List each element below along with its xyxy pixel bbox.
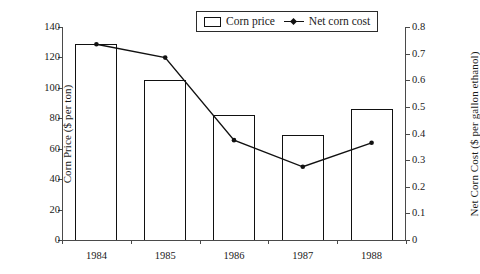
x-axis-tick-label: 1987 bbox=[268, 251, 337, 262]
y-axis-left-tick-label: 80 bbox=[50, 113, 61, 124]
y-axis-right-tick-label: 0.6 bbox=[412, 75, 425, 86]
y-axis-right-tick-label: 0.3 bbox=[412, 155, 425, 166]
data-point-marker bbox=[232, 138, 237, 143]
legend-entry-net-corn-cost: Net corn cost bbox=[284, 16, 370, 28]
y-axis-left-tick-label: 120 bbox=[44, 52, 60, 63]
y-axis-right-tick bbox=[406, 187, 410, 188]
net-corn-cost-markers bbox=[94, 42, 374, 169]
plot-area: Corn Price ($ per ton) Net Corn Cost ($ … bbox=[62, 27, 406, 240]
y-axis-left-tick-label: 100 bbox=[44, 83, 60, 94]
x-axis-tick-label: 1984 bbox=[62, 251, 131, 262]
data-point-marker bbox=[301, 164, 306, 169]
y-axis-right-tick bbox=[406, 27, 410, 28]
y-axis-right-title: Net Corn Cost ($ per gallon ethanol) bbox=[468, 51, 480, 216]
y-axis-right-tick bbox=[406, 54, 410, 55]
y-axis-right-tick-label: 0.7 bbox=[412, 49, 425, 60]
y-axis-right-tick-label: 0.1 bbox=[412, 208, 425, 219]
net-corn-cost-line bbox=[96, 44, 371, 166]
legend-entry-corn-price: Corn price bbox=[204, 16, 275, 28]
x-axis-tick-label: 1986 bbox=[200, 251, 269, 262]
x-axis-tick bbox=[406, 240, 407, 244]
y-axis-left-tick-label: 60 bbox=[50, 144, 61, 155]
y-axis-right-tick-label: 0.8 bbox=[412, 22, 425, 33]
bar-swatch-icon bbox=[204, 17, 221, 27]
x-axis-tick-label: 1985 bbox=[131, 251, 200, 262]
y-axis-right-tick bbox=[406, 107, 410, 108]
y-axis-left-tick-label: 0 bbox=[55, 235, 60, 246]
line-series-net-corn-cost bbox=[62, 27, 406, 241]
y-axis-right-tick bbox=[406, 160, 410, 161]
y-axis-right-tick bbox=[406, 134, 410, 135]
y-axis-right-tick bbox=[406, 80, 410, 81]
line-marker-icon bbox=[284, 18, 304, 26]
data-point-marker bbox=[163, 55, 168, 60]
y-axis-right-tick-label: 0.2 bbox=[412, 182, 425, 193]
y-axis-right-tick-label: 0.5 bbox=[412, 102, 425, 113]
data-point-marker bbox=[94, 42, 99, 47]
data-point-marker bbox=[369, 141, 374, 146]
x-axis-tick-label: 1988 bbox=[337, 251, 406, 262]
legend-label-net-corn-cost: Net corn cost bbox=[309, 16, 370, 28]
y-axis-left-tick-label: 140 bbox=[44, 22, 60, 33]
y-axis-right-tick bbox=[406, 213, 410, 214]
y-axis-left-tick-label: 40 bbox=[50, 174, 61, 185]
y-axis-left-tick-label: 20 bbox=[50, 205, 61, 216]
y-axis-right-tick-label: 0 bbox=[412, 235, 417, 246]
legend-label-corn-price: Corn price bbox=[226, 16, 275, 28]
y-axis-right-tick-label: 0.4 bbox=[412, 129, 425, 140]
